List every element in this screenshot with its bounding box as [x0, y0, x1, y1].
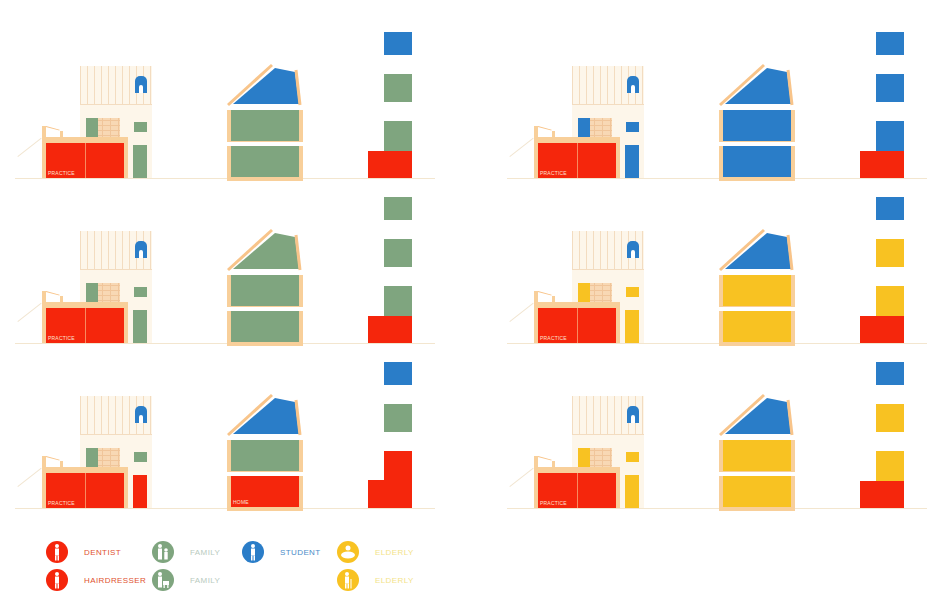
facade-mid-window-right [626, 452, 639, 462]
tower-block-top [384, 32, 412, 55]
tower-block-base [860, 151, 904, 178]
facade-wall-stub [534, 456, 538, 467]
facade-railing [46, 456, 60, 461]
facade-wall-stub [42, 456, 46, 467]
tower-block-middle [384, 404, 412, 432]
legend-item-student: STUDENT [242, 541, 321, 563]
facade-label: PRACTICE [48, 335, 75, 341]
ground-line [15, 178, 435, 179]
tower-block-base [368, 151, 412, 178]
shop-divider [85, 143, 86, 178]
legend-label-family: FAMILY [190, 548, 220, 557]
facade-wall-stub [534, 126, 538, 137]
facade-railing [538, 291, 552, 296]
tower-block-base [860, 316, 904, 343]
section-lower-floor [231, 146, 299, 177]
section-lower-floor [231, 311, 299, 342]
tower-block-base [368, 480, 412, 508]
section-roof [225, 223, 305, 273]
facade-wall-stub-2 [552, 296, 555, 302]
facade-railing [538, 456, 552, 461]
facade-stair [17, 138, 41, 157]
student-icon [242, 541, 264, 563]
shop-divider [577, 308, 578, 343]
section-roof [717, 388, 797, 438]
tower-block-top [384, 362, 412, 385]
section-roof [717, 223, 797, 273]
ground-line [507, 508, 927, 509]
facade-label: PRACTICE [540, 335, 567, 341]
facade-railing [538, 126, 552, 131]
section-upper-floor [231, 440, 299, 471]
tower-block-lower [876, 451, 904, 481]
legend-label-student: STUDENT [280, 548, 321, 557]
legend-label-elderly-couple: ELDERLY [375, 548, 414, 557]
facade-label: PRACTICE [540, 500, 567, 506]
section-upper-floor [231, 275, 299, 306]
facade-wall-stub-2 [552, 461, 555, 467]
family-icon [152, 541, 174, 563]
window-figure [631, 415, 635, 423]
tower-block-top [876, 197, 904, 220]
ground-line [507, 343, 927, 344]
facade-railing [46, 126, 60, 131]
legend-item-hairdresser: HAIRDRESSER [46, 569, 146, 591]
facade-mid-window-right [134, 122, 147, 132]
facade-door [133, 145, 147, 178]
section-lower-floor [723, 311, 791, 342]
shop-divider [577, 143, 578, 178]
legend-item-family-child: FAMILY [152, 569, 220, 591]
facade-wall-stub-2 [60, 461, 63, 467]
ground-line [15, 343, 435, 344]
window-figure [631, 250, 635, 258]
tower-block-middle [876, 74, 904, 102]
legend-label-elderly: ELDERLY [375, 576, 414, 585]
facade-mid-window-right [134, 452, 147, 462]
section-label: HOME [233, 499, 249, 505]
legend-item-elderly: ELDERLY [337, 569, 414, 591]
elderly-couple-icon [337, 541, 359, 563]
tower-block-lower [384, 121, 412, 151]
legend-label-family-child: FAMILY [190, 576, 220, 585]
facade-wall-stub-2 [552, 131, 555, 137]
section-lower-floor [723, 476, 791, 507]
shop-divider [85, 473, 86, 508]
window-figure [139, 250, 143, 258]
facade-wall-stub-2 [60, 131, 63, 137]
ground-line [507, 178, 927, 179]
facade-mid-window-right [134, 287, 147, 297]
facade-mid-window-right [626, 122, 639, 132]
tower-block-top [876, 32, 904, 55]
shop-divider [577, 473, 578, 508]
section-upper-floor [723, 110, 791, 141]
legend-item-elderly-couple: ELDERLY [337, 541, 414, 563]
facade-wall-stub [42, 291, 46, 302]
section-roof [225, 388, 305, 438]
tower-block-lower [876, 286, 904, 316]
legend-item-dentist: DENTIST [46, 541, 121, 563]
section-upper-floor [723, 275, 791, 306]
legend-label-hairdresser: HAIRDRESSER [84, 576, 146, 585]
tower-block-base [860, 481, 904, 508]
tower-block-base [368, 316, 412, 343]
facade-door [625, 310, 639, 343]
facade-door [133, 475, 147, 508]
facade-label: PRACTICE [540, 170, 567, 176]
window-figure [631, 85, 635, 93]
section-upper-floor [231, 110, 299, 141]
facade-stair [509, 468, 533, 487]
facade-stair [509, 303, 533, 322]
tower-block-middle [876, 239, 904, 267]
facade-label: PRACTICE [48, 500, 75, 506]
shop-divider [85, 308, 86, 343]
facade-railing [46, 291, 60, 296]
tower-block-middle [876, 404, 904, 432]
hairdresser-icon [46, 569, 68, 591]
window-figure [139, 415, 143, 423]
section-roof [717, 58, 797, 108]
section-roof [225, 58, 305, 108]
section-upper-floor [723, 440, 791, 471]
facade-stair [509, 138, 533, 157]
tower-block-middle [384, 239, 412, 267]
tower-block-lower [384, 286, 412, 316]
